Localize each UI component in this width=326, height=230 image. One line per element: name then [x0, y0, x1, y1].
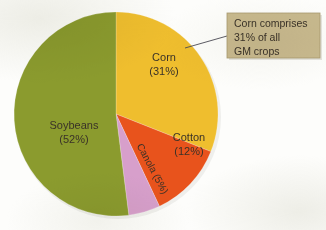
- pie-chart-figure: Corn(31%)Cotton(12%)Canola (5%)Soybeans(…: [0, 0, 326, 230]
- corn-callout: Corn comprises 31% of all GM crops: [227, 13, 322, 60]
- callout-leader-line: [185, 36, 227, 48]
- pie-chart-svg: Corn(31%)Cotton(12%)Canola (5%)Soybeans(…: [0, 0, 326, 230]
- callout-text-line-1: Corn comprises: [234, 17, 308, 29]
- pie-slice-soybeans[interactable]: [14, 12, 129, 216]
- slice-label-name-cotton: Cotton: [173, 131, 205, 143]
- pie-slices-group: [14, 12, 218, 216]
- slice-label-name-soybeans: Soybeans: [50, 119, 99, 131]
- callout-text-line-3: GM crops: [234, 45, 280, 57]
- slice-label-value-soybeans: (52%): [59, 133, 88, 145]
- slice-label-value-cotton: (12%): [174, 145, 203, 157]
- callout-text-line-2: 31% of all: [234, 31, 280, 43]
- slice-label-value-corn: (31%): [149, 65, 178, 77]
- slice-label-name-corn: Corn: [152, 51, 176, 63]
